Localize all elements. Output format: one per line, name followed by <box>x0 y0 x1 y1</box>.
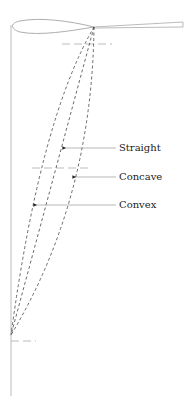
airfoil-outline <box>13 19 95 33</box>
straight-curve <box>11 27 94 335</box>
blade-profile-diagram <box>0 0 195 411</box>
label-convex: Convex <box>119 199 156 211</box>
blade-extension <box>94 22 183 28</box>
label-concave: Concave <box>119 171 162 183</box>
label-straight: Straight <box>119 142 161 154</box>
